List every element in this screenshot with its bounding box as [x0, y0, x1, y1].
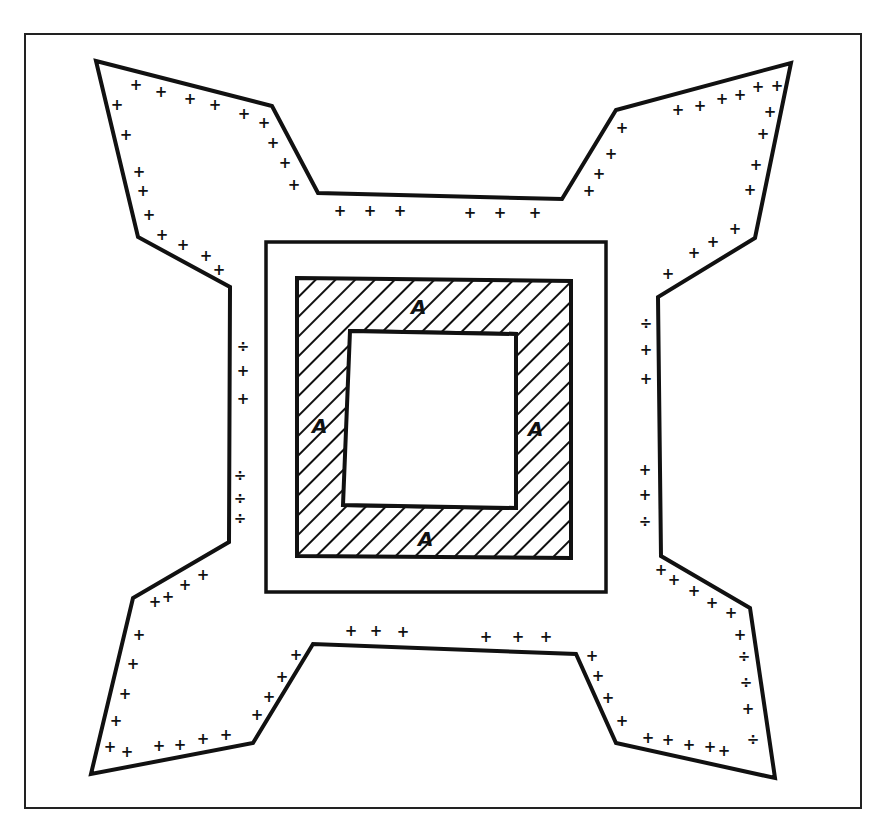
label-top: A	[409, 295, 426, 319]
svg-text:+: +	[593, 165, 606, 183]
svg-text:+: +	[397, 623, 410, 641]
svg-text:+: +	[592, 667, 605, 685]
svg-text:+: +	[742, 700, 755, 718]
svg-text:+: +	[121, 743, 134, 761]
svg-text:+: +	[288, 176, 301, 194]
svg-text:+: +	[734, 86, 747, 104]
svg-text:+: +	[764, 103, 777, 121]
label-bottom: A	[416, 527, 433, 551]
svg-text:+: +	[639, 461, 652, 479]
svg-text:+: +	[640, 341, 653, 359]
svg-text:+: +	[149, 593, 162, 611]
svg-text:+: +	[110, 712, 123, 730]
svg-text:+: +	[704, 738, 717, 756]
svg-text:+: +	[143, 206, 156, 224]
svg-text:+: +	[334, 202, 347, 220]
svg-text:+: +	[290, 646, 303, 664]
svg-text:+: +	[718, 742, 731, 760]
svg-text:+: +	[133, 163, 146, 181]
svg-text:+: +	[177, 236, 190, 254]
svg-text:+: +	[162, 588, 175, 606]
svg-text:+: +	[153, 737, 166, 755]
svg-text:+: +	[694, 97, 707, 115]
svg-text:+: +	[586, 647, 599, 665]
svg-text:+: +	[734, 626, 747, 644]
svg-text:+: +	[640, 370, 653, 388]
svg-text:+: +	[179, 576, 192, 594]
svg-text:+: +	[688, 582, 701, 600]
svg-text:+: +	[707, 233, 720, 251]
svg-text:+: +	[394, 202, 407, 220]
svg-text:+: +	[276, 668, 289, 686]
svg-text:+: +	[672, 101, 685, 119]
svg-text:+: +	[263, 688, 276, 706]
svg-text:÷: ÷	[639, 513, 652, 531]
svg-text:+: +	[744, 181, 757, 199]
svg-text:+: +	[642, 729, 655, 747]
svg-text:+: +	[174, 736, 187, 754]
svg-text:+: +	[752, 78, 765, 96]
svg-text:+: +	[111, 96, 124, 114]
svg-text:+: +	[364, 202, 377, 220]
svg-text:+: +	[155, 83, 168, 101]
svg-text:+: +	[688, 244, 701, 262]
svg-text:+: +	[137, 182, 150, 200]
svg-text:+: +	[725, 604, 738, 622]
svg-text:+: +	[237, 390, 250, 408]
svg-text:+: +	[480, 628, 493, 646]
svg-text:+: +	[279, 154, 292, 172]
svg-text:+: +	[251, 706, 264, 724]
svg-text:+: +	[512, 628, 525, 646]
svg-text:+: +	[540, 628, 553, 646]
svg-text:+: +	[583, 182, 596, 200]
label-right: A	[526, 417, 543, 441]
svg-text:+: +	[267, 134, 280, 152]
svg-text:+: +	[130, 76, 143, 94]
svg-text:+: +	[213, 261, 226, 279]
svg-text:+: +	[662, 731, 675, 749]
svg-text:÷: ÷	[640, 315, 653, 333]
svg-text:+: +	[370, 622, 383, 640]
svg-text:+: +	[757, 125, 770, 143]
svg-text:+: +	[184, 90, 197, 108]
svg-text:+: +	[494, 204, 507, 222]
svg-text:+: +	[156, 226, 169, 244]
svg-text:+: +	[345, 622, 358, 640]
svg-text:+: +	[729, 220, 742, 238]
svg-text:+: +	[119, 685, 132, 703]
svg-text:+: +	[706, 594, 719, 612]
svg-text:+: +	[209, 96, 222, 114]
svg-text:+: +	[750, 156, 763, 174]
svg-text:+: +	[662, 265, 675, 283]
svg-text:÷: ÷	[234, 510, 247, 528]
svg-text:÷: ÷	[738, 648, 751, 666]
svg-text:+: +	[258, 114, 271, 132]
svg-text:+: +	[605, 145, 618, 163]
svg-text:÷: ÷	[237, 338, 250, 356]
svg-text:+: +	[197, 730, 210, 748]
svg-text:+: +	[655, 561, 668, 579]
svg-text:÷: ÷	[234, 467, 247, 485]
label-left: A	[310, 414, 327, 438]
svg-text:+: +	[237, 362, 250, 380]
svg-text:÷: ÷	[234, 490, 247, 508]
svg-text:+: +	[197, 566, 210, 584]
svg-text:÷: ÷	[740, 674, 753, 692]
patent-figure: A A A A ++ ++ ++ ++ + ++ ++ ++ ++ + ++ +…	[0, 0, 886, 836]
svg-text:+: +	[133, 626, 146, 644]
svg-text:+: +	[238, 105, 251, 123]
svg-text:÷: ÷	[747, 731, 760, 749]
svg-text:+: +	[200, 247, 213, 265]
svg-text:+: +	[602, 689, 615, 707]
svg-text:+: +	[529, 204, 542, 222]
svg-text:+: +	[716, 90, 729, 108]
svg-text:+: +	[464, 204, 477, 222]
svg-text:+: +	[616, 712, 629, 730]
svg-text:+: +	[639, 486, 652, 504]
svg-text:+: +	[104, 738, 117, 756]
svg-text:+: +	[120, 126, 133, 144]
svg-text:+: +	[127, 655, 140, 673]
svg-text:+: +	[220, 726, 233, 744]
inner-window	[343, 331, 516, 508]
svg-text:+: +	[668, 571, 681, 589]
